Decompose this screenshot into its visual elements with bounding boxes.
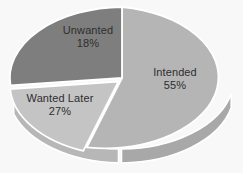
pie-chart: Intended 55% Wanted Later 27% Unwanted 1… (0, 0, 243, 173)
pie-chart-graphic (0, 0, 243, 173)
pie-top-faces (10, 7, 219, 151)
slice-unwanted[interactable] (10, 7, 122, 86)
